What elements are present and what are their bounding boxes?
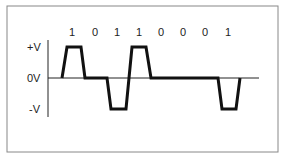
bit-label: 0 (202, 26, 208, 38)
level-label-positive: +V (27, 41, 41, 53)
bit-label: 1 (69, 26, 75, 38)
signal-waveform (62, 47, 240, 109)
bit-label: 0 (92, 26, 98, 38)
bit-label: 1 (114, 26, 120, 38)
bit-label: 0 (180, 26, 186, 38)
bit-label: 0 (158, 26, 164, 38)
level-label-zero: 0V (27, 72, 41, 84)
ami-waveform-diagram: +V 0V -V 1 0 1 1 0 0 0 1 (0, 0, 283, 157)
bit-label: 1 (225, 26, 231, 38)
bit-label: 1 (136, 26, 142, 38)
level-label-negative: -V (29, 103, 41, 115)
